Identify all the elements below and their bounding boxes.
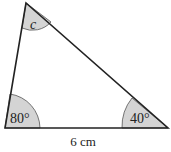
- angle-c-sector: [22, 3, 51, 30]
- triangle-diagram: c 80° 40° 6 cm: [0, 0, 171, 152]
- angle-80-label: 80°: [10, 111, 30, 126]
- angle-c-label: c: [30, 17, 37, 32]
- angle-40-label: 40°: [130, 111, 150, 126]
- side-base-label: 6 cm: [70, 134, 96, 149]
